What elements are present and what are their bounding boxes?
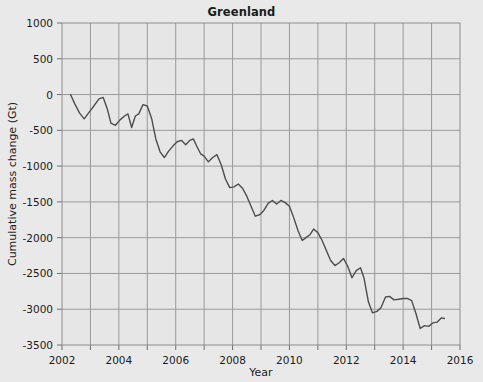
- x-tick-label: 2016: [447, 354, 474, 366]
- y-tick-label: 1000: [26, 17, 53, 29]
- x-tick-label: 2002: [49, 354, 76, 366]
- y-tick-label: 0: [46, 89, 53, 101]
- x-tick-label: 2014: [390, 354, 417, 366]
- y-tick-label: -3000: [22, 303, 53, 315]
- y-tick-label: -3500: [22, 339, 53, 351]
- chart-figure: Greenland 200220042006200820102012201420…: [0, 0, 483, 382]
- x-axis-tick-labels: 20022004200620082010201220142016: [49, 354, 474, 366]
- y-tick-label: -2500: [22, 267, 53, 279]
- y-axis-title: Cumulative mass change (Gt): [6, 102, 19, 266]
- x-tick-label: 2010: [276, 354, 303, 366]
- line-chart-plot: 20022004200620082010201220142016 1000500…: [0, 0, 483, 382]
- x-tick-label: 2012: [333, 354, 360, 366]
- y-tick-label: -2000: [22, 232, 53, 244]
- x-tick-label: 2004: [105, 354, 132, 366]
- x-axis-title: Year: [248, 366, 273, 379]
- y-tick-label: 500: [33, 53, 53, 65]
- y-tick-label: -1000: [22, 160, 53, 172]
- x-tick-label: 2006: [162, 354, 189, 366]
- y-tick-label: -500: [29, 124, 53, 136]
- y-tick-label: -1500: [22, 196, 53, 208]
- x-tick-label: 2008: [219, 354, 246, 366]
- y-axis-tick-labels: 10005000-500-1000-1500-2000-2500-3000-35…: [22, 17, 53, 351]
